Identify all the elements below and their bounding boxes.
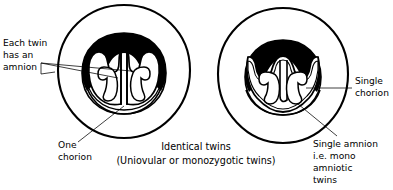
twins-diagram-figure: Each twin has an amnion One chorion Sing… [0,0,393,190]
single-amnion-line-3: amniotic [313,163,352,173]
right-umbilical-column-bottom [280,96,287,101]
single-amnion-line-4: twins [313,175,337,185]
caption-line-2: (Uniovular or monozygotic twins) [116,155,275,166]
each-twin-line-3: amnion [3,62,37,72]
single-amnion-line-2: i.e. mono [313,151,356,161]
diagram-canvas: Each twin has an amnion One chorion Sing… [0,0,393,190]
single-amnion-line-1: Single amnion [313,139,378,149]
left-twin-diagram [58,5,190,138]
single-chorion-line-2: chorion [355,88,389,98]
single-chorion-line-1: Single [355,76,383,86]
one-chorion-line-2: chorion [58,152,92,162]
each-twin-line-2: has an [3,50,33,60]
right-twin-diagram [218,8,348,143]
caption-line-1: Identical twins [161,141,231,152]
one-chorion-line-1: One [58,140,77,150]
each-twin-line-1: Each twin [3,38,47,48]
